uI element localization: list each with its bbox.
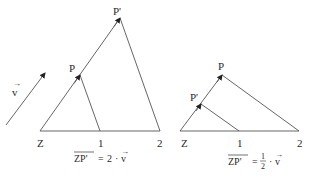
right-formula-numerator: 1 bbox=[261, 152, 265, 161]
left-arrow-P-prime bbox=[114, 18, 120, 27]
right-formula-dot: · bbox=[269, 156, 272, 167]
right-label-Z: Z bbox=[181, 137, 188, 149]
left-label-P-prime: P' bbox=[113, 5, 121, 17]
right-label-P-prime: P' bbox=[190, 91, 198, 103]
left-label-2: 2 bbox=[157, 137, 163, 149]
right-label-1: 1 bbox=[237, 137, 243, 149]
vector-v-arrow bbox=[6, 73, 45, 125]
right-ray bbox=[180, 75, 222, 131]
right-arrow-P-prime bbox=[196, 104, 201, 111]
left-formula-scalar: 2 bbox=[107, 153, 112, 164]
vector-v-arrow-icon: → bbox=[13, 79, 21, 88]
left-label-Z: Z bbox=[37, 137, 44, 149]
right-figure: P P' Z 1 2 ZP' = 1 2 · v → bbox=[180, 60, 303, 171]
left-inner-side bbox=[80, 75, 100, 131]
right-arrow-P bbox=[217, 75, 222, 82]
diagram-canvas: v → P P' Z 1 2 ZP' = 2 · v → P P bbox=[0, 0, 309, 180]
right-outer-side bbox=[222, 75, 299, 131]
left-ray bbox=[40, 18, 120, 131]
left-formula-lhs: ZP' bbox=[74, 153, 88, 164]
left-formula-rhs-arrow-icon: → bbox=[121, 147, 129, 156]
left-figure: P P' Z 1 2 ZP' = 2 · v → bbox=[37, 5, 163, 164]
right-formula-rhs-arrow-icon: → bbox=[275, 150, 283, 159]
left-formula-dot: · bbox=[115, 153, 118, 164]
right-inner-side bbox=[201, 104, 239, 131]
left-label-1: 1 bbox=[98, 137, 104, 149]
vector-v: v → bbox=[6, 73, 45, 125]
left-formula: ZP' = 2 · v → bbox=[74, 147, 129, 164]
right-formula-lhs: ZP' bbox=[228, 156, 242, 167]
right-formula: ZP' = 1 2 · v → bbox=[228, 150, 283, 171]
right-label-P: P bbox=[218, 60, 224, 72]
left-outer-side bbox=[120, 18, 160, 131]
right-formula-denominator: 2 bbox=[261, 162, 265, 171]
left-arrow-P bbox=[74, 75, 80, 84]
left-label-P: P bbox=[69, 62, 75, 74]
right-label-2: 2 bbox=[297, 137, 303, 149]
left-formula-equals: = bbox=[98, 153, 104, 164]
right-formula-equals: = bbox=[252, 156, 258, 167]
